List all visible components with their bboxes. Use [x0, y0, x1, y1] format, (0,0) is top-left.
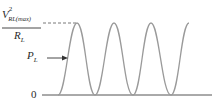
- pl-subscript: L: [34, 56, 38, 64]
- numerator-exponent: 2: [9, 5, 13, 13]
- pl-p: P: [27, 49, 34, 61]
- numerator-label: V2RL(max): [2, 7, 35, 22]
- power-curve: [58, 23, 189, 95]
- denominator-r: R: [14, 29, 21, 41]
- denominator-label: RL: [14, 29, 25, 44]
- zero-label: 0: [31, 88, 37, 100]
- denominator-subscript: L: [21, 36, 25, 44]
- pl-label: PL: [27, 49, 38, 64]
- numerator-subscript: RL(max): [8, 15, 31, 22]
